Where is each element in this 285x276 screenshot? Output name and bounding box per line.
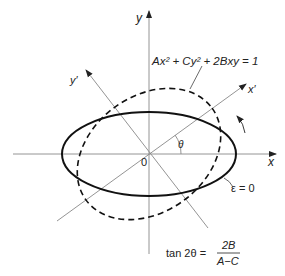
rotation-arrow [237,116,245,133]
x-prime-axis-label: x′ [247,83,257,95]
rotated-ellipse-diagram: y x x′ y′ 0 θ Ax² + Cy² + 2Bxy = 1 ε = 0… [0,0,285,276]
y-prime-axis-label: y′ [69,74,79,86]
formula-lhs: tan 2θ = [166,247,206,259]
theta-label: θ [178,139,184,150]
dashed-ellipse-equation: Ax² + Cy² + 2Bxy = 1 [151,55,258,67]
solid-ellipse-label: ε = 0 [231,182,255,194]
y-prime-axis [86,70,208,228]
equation-leader-line [190,66,202,89]
formula-denominator: A−C [216,255,239,267]
formula-numerator: 2B [221,239,235,251]
y-axis-label: y [135,11,143,25]
x-axis-label: x [267,155,275,169]
origin-label: 0 [141,156,147,168]
